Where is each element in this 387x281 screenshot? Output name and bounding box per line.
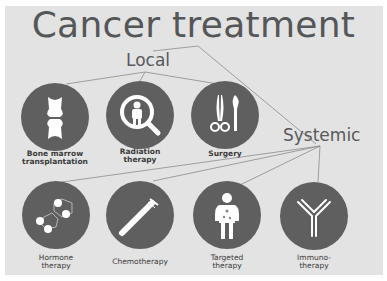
- molecule-icon: [22, 181, 90, 249]
- scissors-scalpel-icon: [191, 81, 259, 149]
- surgery-node: [191, 81, 259, 149]
- treatment-label: Radiationtherapy: [95, 148, 185, 164]
- treatment-label: Hormonetherapy: [11, 254, 101, 270]
- magnifier-person-icon: [106, 81, 174, 149]
- test-tube-icon: [106, 181, 174, 249]
- category-local-label: Local: [126, 50, 170, 70]
- immunotherapy-node: [280, 182, 348, 250]
- hormone-therapy-node: [22, 181, 90, 249]
- bone-joint-icon: [21, 83, 89, 151]
- chemotherapy-node: [106, 181, 174, 249]
- radiation-therapy-node: [106, 81, 174, 149]
- treatment-label: Bone marrowtransplantation: [10, 150, 100, 166]
- treatment-label: Immuno-therapy: [269, 254, 359, 270]
- category-systemic-label: Systemic: [283, 125, 360, 145]
- treatment-label: Chemotherapy: [95, 258, 185, 266]
- body-target-icon: [193, 181, 261, 249]
- targeted-therapy-node: [193, 181, 261, 249]
- bone-marrow-node: [21, 83, 89, 151]
- treatment-label: Surgery: [180, 150, 270, 158]
- treatment-label: Targetedtherapy: [182, 254, 272, 270]
- diagram-title: Cancer treatment: [0, 4, 387, 45]
- antibody-icon: [280, 182, 348, 250]
